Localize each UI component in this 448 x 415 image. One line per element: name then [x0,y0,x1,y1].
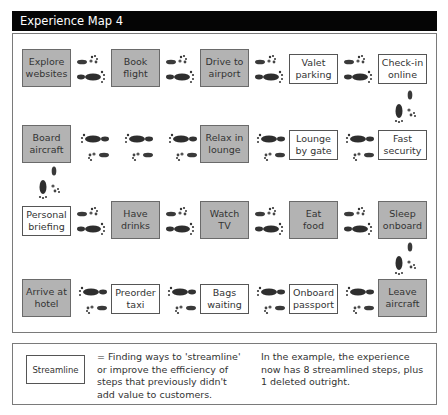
step-have-drinks: Have drinks [111,201,160,239]
footprints-icon [338,283,378,317]
step-personal-briefing: Personal briefing [22,206,71,236]
step-eat-food: Eat food [289,201,338,239]
step-watch-tv: Watch TV [200,201,249,239]
step-drive-to-airport: Drive to airport [200,49,249,87]
legend-streamline-swatch: Streamline [26,355,85,384]
map-title: Experience Map 4 [20,14,123,28]
step-preorder-taxi: Preorder taxi [111,284,160,314]
step-valet-parking: Valet parking [289,54,338,84]
footprints-icon [249,130,289,164]
footprints-icon [160,283,200,317]
step-lounge-by-gate: Lounge by gate [289,130,338,160]
footprints-icon [162,52,202,86]
step-book-flight: Book flight [111,49,160,87]
step-board-aircraft: Board aircraft [22,125,71,163]
footprints-icon [389,88,419,126]
experience-map-panel: Explore websites Book flight Drive to ai… [12,33,437,333]
step-relax-in-lounge: Relax in lounge [200,125,249,163]
step-fast-security: Fast security [378,130,427,160]
footprints-icon [161,130,201,164]
step-sleep-onboard: Sleep onboard [378,201,427,239]
footprints-icon [340,204,380,238]
step-onboard-passport: Onboard passport [289,284,338,314]
footprints-icon [71,283,111,317]
legend-panel: Streamline = Finding ways to 'streamline… [12,343,437,405]
footprints-icon [251,204,291,238]
footprints-icon [389,240,419,278]
footprints-icon [73,204,113,238]
step-arrive-at-hotel: Arrive at hotel [22,279,71,317]
map-title-bar: Experience Map 4 [12,11,437,31]
step-leave-aircraft: Leave aircraft [378,279,427,317]
footprints-icon [340,52,380,86]
footprints-icon [73,52,113,86]
legend-note: In the example, the experience now has 8… [261,351,431,389]
footprints-icon [33,164,63,202]
footprints-icon [73,130,113,164]
step-bags-waiting: Bags waiting [200,284,249,314]
footprints-icon [162,204,202,238]
footprints-icon [249,283,289,317]
step-check-in-online: Check-in online [378,54,427,84]
legend-definition: = Finding ways to 'streamline' or improv… [97,351,247,401]
footprints-icon [117,130,157,164]
footprints-icon [251,52,291,86]
footprints-icon [338,130,378,164]
step-explore-websites: Explore websites [22,49,71,87]
